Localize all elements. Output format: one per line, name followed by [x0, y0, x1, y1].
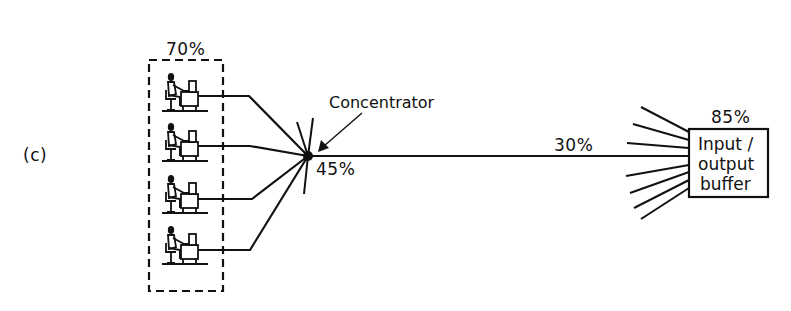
network-diagram: (c) 70% Concentrator 45% 30%	[0, 0, 791, 311]
terminal-operator-icon	[162, 123, 208, 161]
pointer-arrow-icon	[318, 113, 362, 152]
terminal-1	[162, 73, 208, 111]
terminal-3	[162, 175, 208, 213]
terminal-operator-icon	[162, 73, 208, 111]
terminal-2	[162, 123, 208, 161]
terminal-group-utilization: 70%	[166, 39, 205, 59]
panel-label: (c)	[23, 145, 47, 165]
link-terminal-4	[198, 156, 308, 250]
terminal-operator-icon	[162, 175, 208, 213]
terminal-4	[162, 226, 208, 264]
concentrator-label: Concentrator	[329, 93, 435, 112]
trunk-utilization: 30%	[554, 135, 593, 155]
buffer-utilization: 85%	[711, 107, 750, 127]
link-terminal-3	[198, 156, 308, 199]
terminal-operator-icon	[162, 226, 208, 264]
buffer-label-line-2: output	[698, 154, 754, 174]
buffer-incoming-lines	[626, 107, 689, 219]
concentrator-utilization: 45%	[316, 159, 355, 179]
buffer-label-line-3: buffer	[700, 174, 751, 194]
buffer-label-line-1: Input /	[698, 134, 753, 154]
link-terminal-2	[198, 146, 308, 156]
terminal-links	[198, 96, 308, 250]
